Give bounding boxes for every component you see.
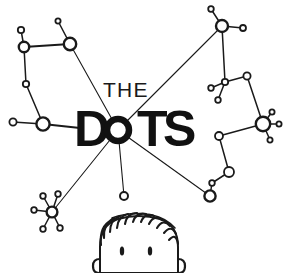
constellation-node (267, 137, 272, 142)
constellation-node (208, 85, 214, 91)
constellation-node (55, 191, 61, 197)
constellation-node (209, 180, 215, 186)
lone-node (120, 192, 128, 200)
constellation-node (215, 97, 221, 103)
constellation-node (276, 121, 281, 126)
left-eye (120, 246, 124, 255)
constellation-node (243, 72, 250, 79)
constellation-node (64, 38, 76, 50)
constellation-node (57, 225, 63, 231)
constellation-node (224, 167, 234, 177)
constellation-node (47, 207, 58, 218)
constellation-node (36, 117, 49, 130)
constellation-node (40, 226, 46, 232)
constellation-node (204, 190, 215, 201)
constellation-node (40, 193, 46, 199)
constellation-node (269, 109, 274, 114)
constellation-node (256, 117, 270, 131)
constellation-node (19, 42, 29, 52)
wordmark-letter-s: S (163, 101, 196, 157)
constellation-node (55, 18, 60, 23)
central-hub-o (107, 119, 129, 141)
constellation-node (222, 79, 228, 85)
constellation-node (18, 27, 24, 33)
constellation-node (216, 20, 228, 32)
wordmark-the: THE (103, 78, 149, 101)
constellation-node (31, 207, 37, 213)
constellation-node (23, 81, 29, 87)
constellation-node (9, 118, 16, 125)
the-dots-logo: THE D T S (0, 0, 285, 273)
right-eye (148, 246, 152, 255)
constellation-node (215, 132, 223, 140)
constellation-node (208, 6, 214, 12)
constellation-illustration: THE D T S (0, 0, 285, 273)
constellation-node (240, 25, 246, 31)
